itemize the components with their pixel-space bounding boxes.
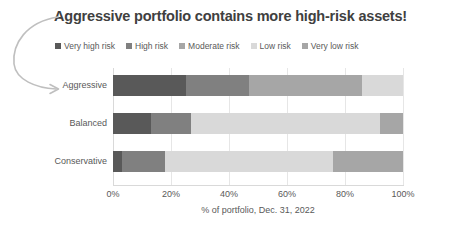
bar-row [113,75,403,96]
x-axis-line [113,185,404,186]
bar-segment[interactable] [333,151,403,172]
legend-swatch-icon [179,43,185,49]
legend-item-very-high-risk[interactable]: Very high risk [55,41,115,51]
bar-row [113,151,403,172]
x-axis-tick-label: 0% [106,189,119,199]
legend-label: Moderate risk [188,41,240,51]
bar-segment[interactable] [113,113,151,134]
chart-legend: Very high risk High risk Moderate risk L… [55,41,435,51]
x-axis-tick-label: 40% [220,189,238,199]
legend-label: Low risk [260,41,291,51]
chart-container: Aggressive portfolio contains more high-… [0,0,449,239]
x-axis-title: % of portfolio, Dec. 31, 2022 [113,205,403,215]
bar-segment[interactable] [151,113,192,134]
bar-segment[interactable] [380,113,403,134]
legend-label: Very low risk [311,41,359,51]
legend-item-moderate-risk[interactable]: Moderate risk [179,41,240,51]
plot-area [113,68,403,185]
legend-swatch-icon [302,43,308,49]
legend-label: Very high risk [64,41,115,51]
legend-item-very-low-risk[interactable]: Very low risk [302,41,359,51]
y-axis-label-conservative: Conservative [12,151,107,172]
bar-segment[interactable] [191,113,380,134]
x-axis-tick-label: 60% [278,189,296,199]
chart-title: Aggressive portfolio contains more high-… [54,8,434,24]
y-axis-label-balanced: Balanced [12,113,107,134]
x-axis-tick-label: 100% [391,189,414,199]
y-axis-labels: Aggressive Balanced Conservative [0,68,107,185]
legend-swatch-icon [55,43,61,49]
bar-segment[interactable] [113,75,186,96]
legend-item-high-risk[interactable]: High risk [126,41,168,51]
gridline [403,68,404,185]
bar-segment[interactable] [249,75,362,96]
x-axis-tick-label: 20% [162,189,180,199]
bar-segment[interactable] [113,151,122,172]
legend-swatch-icon [126,43,132,49]
bar-row [113,113,403,134]
legend-label: High risk [135,41,168,51]
bar-segment[interactable] [186,75,250,96]
bar-segment[interactable] [362,75,403,96]
x-axis-ticks: 0%20%40%60%80%100% [113,189,403,203]
bar-segment[interactable] [122,151,166,172]
bar-segment[interactable] [165,151,333,172]
x-axis-tick-label: 80% [336,189,354,199]
y-axis-label-aggressive: Aggressive [12,75,107,96]
legend-swatch-icon [251,43,257,49]
legend-item-low-risk[interactable]: Low risk [251,41,291,51]
